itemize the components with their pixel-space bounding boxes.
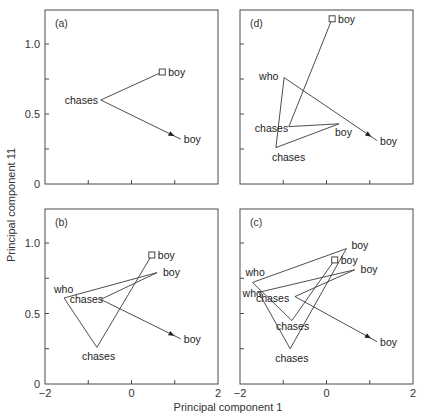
start-marker-square-icon [159, 69, 165, 75]
figure: 00.51.0(a)boychasesboy(d)boychasesboycha… [0, 0, 428, 418]
start-marker-square-icon [329, 16, 335, 22]
x-tick-label: 2 [215, 387, 221, 399]
panel-a: 00.51.0(a)boychasesboy [25, 10, 218, 190]
word-label-chases: chases [70, 293, 103, 305]
panel-label: (a) [55, 17, 68, 29]
start-marker-square-icon [332, 257, 338, 263]
trajectory-line [276, 19, 377, 148]
word-label-boy: boy [380, 336, 398, 348]
y-tick-label: 1.0 [25, 38, 40, 50]
word-label-boy: boy [158, 249, 176, 261]
panel-frame [240, 10, 413, 184]
word-label-chases: chases [65, 94, 98, 106]
word-label-who: who [245, 266, 265, 278]
panel-label: (d) [250, 17, 263, 29]
y-tick-label: 1.0 [25, 237, 40, 249]
panel-d: (d)boychasesboychaseswhoboy [240, 10, 413, 184]
word-label-chases: chases [256, 292, 289, 304]
trajectory-line [101, 72, 181, 139]
word-label-chases: chases [275, 352, 308, 364]
y-tick-label: 0.5 [25, 308, 40, 320]
word-label-boy: boy [168, 66, 186, 78]
panel-b: 00.51.0−202(b)boychaseswhoboychasesboy [25, 209, 221, 399]
y-tick-label: 0.5 [25, 108, 40, 120]
y-axis-label: Principal component 11 [5, 148, 17, 262]
panels-group: 00.51.0(a)boychasesboy(d)boychasesboycha… [25, 10, 416, 399]
x-axis-label: Principal component 1 [174, 401, 283, 413]
word-label-boy: boy [380, 135, 398, 147]
y-tick-label: 0 [34, 178, 40, 190]
word-label-boy: boy [184, 333, 202, 345]
panel-label: (c) [250, 216, 262, 228]
panel-label: (b) [55, 216, 68, 228]
start-marker-square-icon [149, 252, 155, 258]
x-tick-label: −2 [234, 387, 247, 399]
word-label-boy: boy [163, 266, 181, 278]
word-label-boy: boy [351, 239, 369, 251]
panel-c: −202(c)boychaseswhoboychaseswhoboychases… [234, 209, 416, 399]
x-tick-label: 0 [323, 387, 329, 399]
x-tick-label: 2 [410, 387, 416, 399]
word-label-boy: boy [335, 126, 353, 138]
end-arrowhead-icon [365, 131, 371, 136]
x-tick-label: −2 [39, 387, 52, 399]
word-label-chases: chases [82, 350, 115, 362]
word-label-chases: chases [255, 122, 288, 134]
word-label-boy: boy [338, 13, 356, 25]
word-label-boy: boy [184, 133, 202, 145]
x-tick-label: 0 [128, 387, 134, 399]
word-label-who: who [258, 70, 278, 82]
word-label-chases: chases [272, 151, 305, 163]
word-label-boy: boy [341, 254, 359, 266]
word-label-boy: boy [361, 263, 379, 275]
word-label-chases: chases [276, 320, 309, 332]
